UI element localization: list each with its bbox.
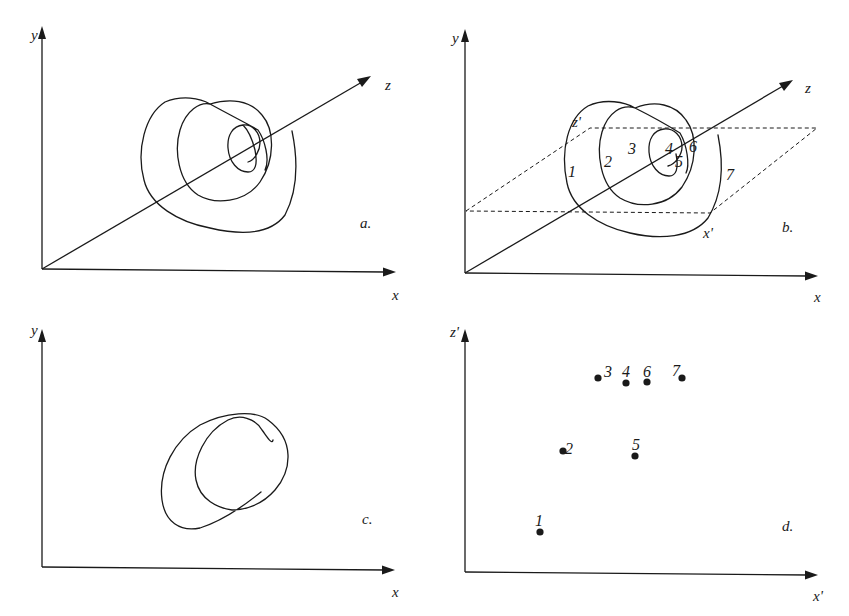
x-axis-arrowhead-icon [805,272,818,281]
section-point-3 [594,374,601,381]
y-axis-label: y [29,322,38,338]
point-label-1: 1 [535,512,543,529]
intersection-label-3: 3 [627,140,636,157]
panel-label-b: b. [782,219,793,235]
y-axis-arrowhead-icon [38,329,46,342]
z-axis [42,82,362,269]
point-label-2: 2 [565,440,573,457]
y-axis-label: y [450,30,459,46]
panel-label-a: a. [360,215,371,231]
x-axis-arrowhead-icon [382,566,395,575]
intersection-label-2: 2 [604,153,612,170]
intersection-label-7: 7 [726,166,735,183]
point-label-7: 7 [672,362,681,379]
point-label-5: 5 [632,436,640,453]
figure-canvas: y z x a. y z x b. x' z' 1 2 3 4 5 6 7 [0,0,849,616]
x-axis-arrowhead-icon [383,268,396,277]
section-points [536,374,685,535]
z-prime-label: z' [571,114,582,130]
spiral-trajectory [141,98,296,232]
z-axis-arrowhead-icon [357,76,371,87]
x-axis [42,269,385,272]
x-axis-label: x [391,584,399,600]
point-label-4: 4 [622,363,630,380]
panel-d: 1 2 3 4 5 6 7 z' x' d. [449,324,824,604]
z-axis-label: z [804,80,811,96]
intersection-label-6: 6 [689,138,697,155]
intersection-label-5: 5 [675,153,683,170]
panel-a: y z x a. [29,26,399,303]
point-label-3: 3 [603,363,612,380]
z-prime-axis-arrowhead-icon [461,329,469,342]
z-axis-label: z [384,77,391,93]
section-point-5 [631,452,638,459]
intersection-label-4: 4 [665,140,673,157]
panel-c: y x c. [29,322,399,600]
z-axis-arrowhead-icon [779,80,793,91]
intersection-label-1: 1 [568,163,576,180]
x-axis [42,567,385,570]
x-axis-label: x [391,287,399,303]
panel-b: y z x b. x' z' 1 2 3 4 5 6 7 [450,29,821,305]
x-axis-label: x [813,289,821,305]
y-axis-arrowhead-icon [461,29,469,42]
poincare-section-plane [466,128,817,213]
x-prime-axis [465,572,808,575]
x-prime-label: x' [702,225,714,241]
x-prime-axis-arrowhead-icon [805,571,818,580]
section-point-4 [622,379,629,386]
x-axis [465,273,808,276]
z-prime-axis-label: z' [449,324,460,340]
section-point-1 [536,528,543,535]
projected-trajectory [161,414,288,529]
point-label-6: 6 [643,363,651,380]
x-prime-axis-label: x' [812,588,824,604]
panel-label-d: d. [782,518,793,534]
y-axis-label: y [29,27,38,43]
y-axis-arrowhead-icon [38,26,46,39]
panel-label-c: c. [362,511,372,527]
